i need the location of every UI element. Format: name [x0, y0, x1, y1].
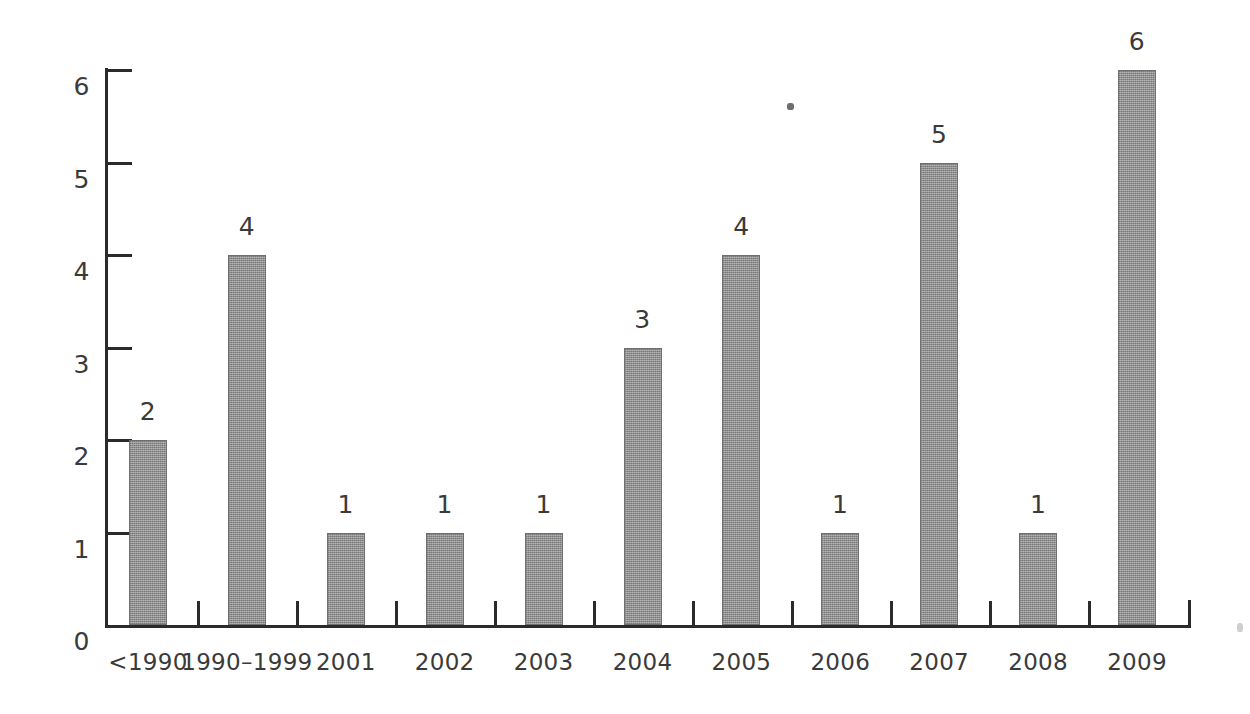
bar-value-label-2001: 1	[316, 492, 376, 517]
bar-value-label-2009: 6	[1107, 29, 1167, 54]
bar-2006	[821, 533, 859, 626]
x-axis-end-tick	[1188, 600, 1191, 628]
bar-value-label-2004: 3	[613, 307, 673, 332]
y-axis-tick-label-3: 3	[56, 352, 90, 377]
bar-value-label-2007: 5	[909, 122, 969, 147]
bar-2007	[920, 163, 958, 626]
y-axis-tick-3	[105, 347, 132, 350]
x-axis-tick-2	[395, 601, 398, 626]
bar-<1990	[129, 440, 167, 625]
y-axis-tick-label-6: 6	[56, 74, 90, 99]
x-axis-tick-3	[494, 601, 497, 626]
bar-2005	[722, 255, 760, 625]
plot-area: 0123456 24111341516 <19901990–1999200120…	[0, 0, 1250, 714]
x-axis-tick-7	[890, 601, 893, 626]
bar-2004	[624, 348, 662, 626]
y-axis-tick-5	[105, 162, 132, 165]
bar-value-label-2006: 1	[810, 492, 870, 517]
x-axis-tick-9	[1088, 601, 1091, 626]
bar-value-label-2002: 1	[415, 492, 475, 517]
bar-2001	[327, 533, 365, 626]
y-axis-tick-label-4: 4	[56, 259, 90, 284]
bar-2009	[1118, 70, 1156, 625]
scan-speck-artifact-edge	[1237, 623, 1243, 632]
x-axis-tick-0	[197, 601, 200, 626]
bar-value-label-2005: 4	[711, 214, 771, 239]
y-axis-tick-6	[105, 69, 132, 72]
bar-value-label-1990–1999: 4	[217, 214, 277, 239]
x-axis-line	[105, 625, 1191, 628]
x-axis-tick-1	[296, 601, 299, 626]
bar-value-label-2008: 1	[1008, 492, 1068, 517]
x-axis-tick-5	[692, 601, 695, 626]
bar-value-label-2003: 1	[514, 492, 574, 517]
x-axis-category-label-2009: 2009	[1067, 648, 1207, 676]
bar-2002	[426, 533, 464, 626]
bar-1990–1999	[228, 255, 266, 625]
y-axis-tick-2	[105, 439, 132, 442]
y-axis-tick-label-1: 1	[56, 537, 90, 562]
y-axis-tick-label-2: 2	[56, 444, 90, 469]
x-axis-tick-4	[593, 601, 596, 626]
y-axis-tick-label-5: 5	[56, 167, 90, 192]
bar-2003	[525, 533, 563, 626]
y-axis-tick-1	[105, 532, 132, 535]
bar-2008	[1019, 533, 1057, 626]
x-axis-tick-8	[989, 601, 992, 626]
x-axis-tick-6	[791, 601, 794, 626]
bar-chart: 0123456 24111341516 <19901990–1999200120…	[0, 0, 1250, 714]
scan-speck-artifact	[787, 103, 794, 110]
bar-value-label-<1990: 2	[118, 399, 178, 424]
y-axis-tick-4	[105, 254, 132, 257]
